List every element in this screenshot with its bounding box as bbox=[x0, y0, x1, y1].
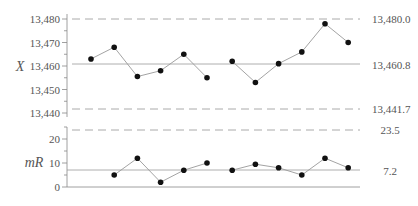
data-point bbox=[276, 165, 282, 171]
data-point bbox=[253, 161, 259, 167]
series-line bbox=[232, 158, 348, 175]
x-lcl-label: 13,441.7 bbox=[372, 103, 411, 115]
data-point bbox=[181, 167, 187, 173]
x-axis-label: X bbox=[15, 59, 25, 74]
x-tick-13480: 13,480 bbox=[30, 13, 61, 25]
mr-chart: 20 10 0 mR 23.5 7.2 bbox=[25, 124, 400, 193]
x-tick-13470: 13,470 bbox=[30, 37, 61, 49]
data-point bbox=[204, 75, 210, 81]
data-point bbox=[322, 155, 328, 161]
x-tick-13450: 13,450 bbox=[30, 84, 61, 96]
data-point bbox=[253, 80, 259, 86]
data-point bbox=[181, 51, 187, 57]
x-tick-13460: 13,460 bbox=[30, 60, 61, 72]
series-line bbox=[91, 47, 207, 78]
data-point bbox=[345, 165, 351, 171]
data-point bbox=[299, 172, 305, 178]
series-line bbox=[232, 24, 348, 83]
data-point bbox=[135, 155, 141, 161]
data-point bbox=[322, 21, 328, 27]
x-chart: 13,480 13,470 13,460 13,450 13,440 X 13,… bbox=[15, 13, 411, 119]
x-ucl-label: 13,480.0 bbox=[372, 13, 411, 25]
data-point bbox=[111, 172, 117, 178]
mr-chart-ticks bbox=[62, 127, 67, 187]
x-tick-13440: 13,440 bbox=[30, 107, 61, 119]
data-point bbox=[158, 68, 164, 74]
data-point bbox=[345, 40, 351, 46]
mr-cl-label: 7.2 bbox=[383, 165, 397, 177]
mr-tick-0: 0 bbox=[55, 181, 61, 193]
data-point bbox=[158, 179, 164, 185]
data-point bbox=[229, 167, 235, 173]
data-point bbox=[299, 49, 305, 55]
control-chart: 13,480 13,470 13,460 13,450 13,440 X 13,… bbox=[0, 0, 418, 206]
mr-tick-20: 20 bbox=[49, 133, 61, 145]
data-point bbox=[276, 61, 282, 67]
data-point bbox=[88, 56, 94, 62]
data-point bbox=[204, 160, 210, 166]
x-series bbox=[88, 21, 351, 85]
mr-axis-label: mR bbox=[25, 155, 44, 170]
data-point bbox=[111, 44, 117, 50]
data-point bbox=[135, 74, 141, 80]
data-point bbox=[229, 59, 235, 65]
mr-ucl-label: 23.5 bbox=[380, 124, 400, 136]
mr-tick-10: 10 bbox=[49, 157, 61, 169]
x-cl-label: 13,460.8 bbox=[372, 59, 411, 71]
x-chart-ticks bbox=[62, 19, 67, 113]
